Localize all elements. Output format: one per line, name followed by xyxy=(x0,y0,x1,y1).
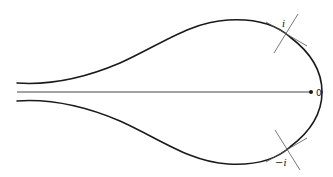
upper-normal-line xyxy=(274,14,298,53)
upper-contour-curve xyxy=(17,20,322,92)
lower-contour-curve xyxy=(17,92,322,164)
upper-point-label: i xyxy=(282,18,285,29)
upper-tangent-line xyxy=(266,22,307,46)
contour-diagram: 0 i −i xyxy=(0,0,333,177)
lower-point-label: −i xyxy=(275,157,287,168)
origin-point xyxy=(309,90,313,94)
